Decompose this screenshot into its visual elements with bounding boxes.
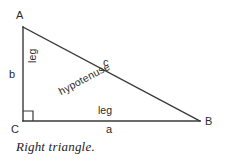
triangle-drawing bbox=[0, 0, 225, 159]
vertex-label-b: B bbox=[205, 116, 212, 127]
right-angle-marker bbox=[23, 111, 33, 121]
right-triangle-figure: A B C b a c leg leg hypotenuse Right tri… bbox=[0, 0, 225, 159]
vertex-label-c: C bbox=[11, 124, 19, 135]
side-variable-a: a bbox=[106, 124, 112, 135]
figure-caption: Right triangle. bbox=[16, 139, 95, 155]
side-word-leg-horizontal: leg bbox=[98, 105, 112, 116]
side-word-leg-vertical: leg bbox=[27, 48, 38, 63]
vertex-label-a: A bbox=[16, 10, 23, 21]
side-variable-b: b bbox=[9, 69, 15, 80]
